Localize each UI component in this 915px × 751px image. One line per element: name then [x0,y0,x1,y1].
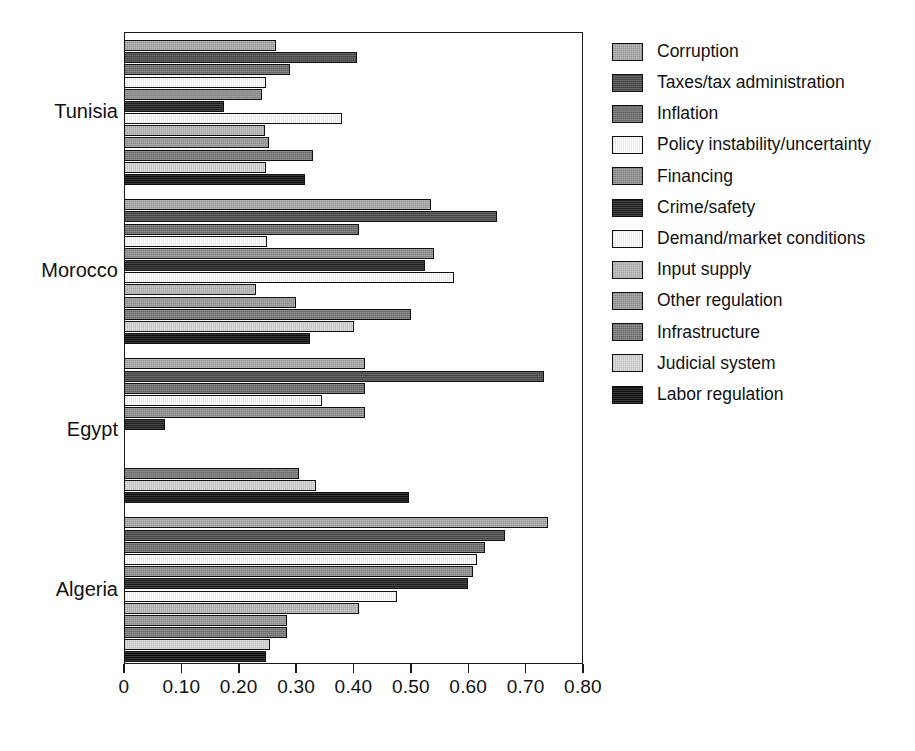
bar-egypt-taxes [124,371,544,382]
legend-item-taxes[interactable]: Taxes/tax administration [612,67,912,98]
x-tick-3 [295,664,297,673]
legend-label: Labor regulation [657,386,783,404]
category-label-egypt: Egypt [6,418,118,441]
legend-label: Input supply [657,261,751,279]
legend-swatch-financing-icon [612,167,643,185]
legend-item-corruption[interactable]: Corruption [612,36,912,67]
bar-morocco-labor [124,333,310,344]
legend-label: Financing [657,168,733,186]
bar-egypt-inflation [124,383,365,394]
legend-swatch-demand-icon [612,230,643,248]
x-tick-4 [353,664,355,673]
bar-tunisia-corruption [124,40,276,51]
bar-tunisia-judicial [124,162,266,173]
bar-algeria-demand [124,591,397,602]
legend-label: Judicial system [657,355,776,373]
bar-tunisia-inflation [124,64,290,75]
legend-label: Infrastructure [657,324,760,342]
legend-label: Corruption [657,43,739,61]
legend-swatch-labor-icon [612,386,643,404]
x-tick-5 [410,664,412,673]
legend-item-infrastructure[interactable]: Infrastructure [612,317,912,348]
bar-morocco-otherreg [124,297,296,308]
legend-label: Policy instability/uncertainty [657,136,871,154]
x-tick-label-8: 0.80 [543,676,623,698]
category-axis-labels: TunisiaMoroccoEgyptAlgeria [0,0,118,751]
bar-egypt-financing [124,407,365,418]
bar-morocco-taxes [124,211,497,222]
x-tick-0 [123,664,125,673]
bar-tunisia-labor [124,174,305,185]
legend-swatch-judicial-icon [612,354,643,372]
legend-item-input[interactable]: Input supply [612,254,912,285]
legend-item-labor[interactable]: Labor regulation [612,379,912,410]
bar-tunisia-input [124,125,265,136]
category-label-morocco: Morocco [6,259,118,282]
bar-egypt-policy [124,395,322,406]
x-tick-7 [525,664,527,673]
bar-morocco-judicial [124,321,354,332]
bar-tunisia-otherreg [124,137,269,148]
bar-algeria-policy [124,554,477,565]
legend-item-inflation[interactable]: Inflation [612,98,912,129]
bar-morocco-policy [124,236,267,247]
legend-swatch-infrastructure-icon [612,323,643,341]
legend: CorruptionTaxes/tax administrationInflat… [612,36,912,410]
bar-algeria-judicial [124,639,270,650]
legend-item-demand[interactable]: Demand/market conditions [612,223,912,254]
bar-egypt-judicial [124,480,316,491]
legend-label: Taxes/tax administration [657,74,845,92]
bar-egypt-infrastructure [124,468,299,479]
bar-egypt-corruption [124,358,365,369]
bar-algeria-otherreg [124,615,287,626]
bar-tunisia-financing [124,89,262,100]
bar-algeria-labor [124,651,266,662]
bars-layer [124,32,583,664]
category-label-tunisia: Tunisia [6,100,118,123]
bar-morocco-demand [124,272,454,283]
legend-label: Inflation [657,105,718,123]
bar-morocco-infrastructure [124,309,411,320]
legend-item-financing[interactable]: Financing [612,161,912,192]
bar-tunisia-taxes [124,52,357,63]
bar-morocco-corruption [124,199,431,210]
legend-label: Demand/market conditions [657,230,865,248]
bar-morocco-crime [124,260,425,271]
legend-item-otherreg[interactable]: Other regulation [612,286,912,317]
bar-morocco-input [124,284,256,295]
bar-tunisia-demand [124,113,342,124]
legend-item-policy[interactable]: Policy instability/uncertainty [612,130,912,161]
legend-label: Crime/safety [657,199,755,217]
bar-algeria-taxes [124,530,505,541]
legend-swatch-taxes-icon [612,74,643,92]
legend-item-judicial[interactable]: Judicial system [612,348,912,379]
legend-swatch-input-icon [612,261,643,279]
bar-algeria-corruption [124,517,548,528]
legend-label: Other regulation [657,292,783,310]
x-tick-1 [181,664,183,673]
legend-swatch-otherreg-icon [612,292,643,310]
bar-algeria-crime [124,578,468,589]
bar-morocco-inflation [124,224,359,235]
legend-swatch-crime-icon [612,199,643,217]
legend-item-crime[interactable]: Crime/safety [612,192,912,223]
bar-algeria-input [124,603,359,614]
legend-swatch-inflation-icon [612,105,643,123]
bar-chart: 00.100.200.300.400.500.600.700.80 Tunisi… [0,0,915,751]
bar-tunisia-crime [124,101,224,112]
bar-tunisia-policy [124,77,266,88]
bar-algeria-financing [124,566,473,577]
bar-algeria-infrastructure [124,627,287,638]
category-label-algeria: Algeria [6,578,118,601]
bar-egypt-labor [124,492,409,503]
legend-swatch-policy-icon [612,136,643,154]
bar-egypt-crime [124,419,165,430]
bar-tunisia-infrastructure [124,150,313,161]
x-tick-8 [582,664,584,673]
bar-algeria-inflation [124,542,485,553]
legend-swatch-corruption-icon [612,43,643,61]
x-tick-2 [238,664,240,673]
x-tick-6 [468,664,470,673]
bar-morocco-financing [124,248,434,259]
